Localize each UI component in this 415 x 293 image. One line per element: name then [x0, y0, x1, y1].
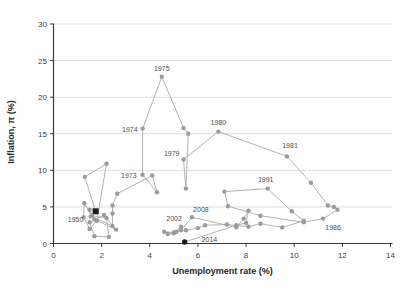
year-label-2014: 2014 — [202, 236, 218, 243]
point-1979 — [181, 157, 185, 161]
point-1970 — [115, 192, 119, 196]
point-1961 — [87, 220, 91, 224]
y-tick-label-15: 15 — [38, 130, 47, 139]
point-1998 — [203, 223, 207, 227]
point-1963 — [114, 227, 118, 231]
point-1977 — [186, 132, 190, 136]
point-1989 — [226, 204, 230, 208]
point-1976 — [181, 126, 185, 130]
point-1994 — [280, 225, 284, 229]
point-1950-black-square — [93, 208, 99, 214]
y-tick-label-5: 5 — [43, 203, 48, 212]
point-1999 — [196, 226, 200, 230]
x-tick-label-12: 12 — [338, 251, 347, 260]
y-tick-label-10: 10 — [38, 166, 47, 175]
y-tick-label-25: 25 — [38, 57, 47, 66]
point-2005 — [162, 230, 166, 234]
point-1968 — [110, 211, 114, 215]
year-label-1986: 1986 — [325, 224, 341, 231]
point-2000 — [184, 228, 188, 232]
point-1965 — [87, 208, 91, 212]
point-1978 — [184, 186, 188, 190]
point-1951 — [83, 175, 87, 179]
point-1969 — [110, 203, 114, 207]
point-1980 — [216, 129, 220, 133]
point-1991 — [266, 186, 270, 190]
x-tick-label-4: 4 — [148, 251, 153, 260]
y-axis-title: Inflation, π (%) — [6, 72, 16, 192]
year-label-1980: 1980 — [211, 119, 227, 126]
point-1954 — [87, 227, 91, 231]
point-1956 — [82, 201, 86, 205]
x-tick-label-10: 10 — [290, 251, 299, 260]
point-1997 — [225, 222, 229, 226]
x-tick-label-8: 8 — [244, 251, 249, 260]
point-2012 — [244, 221, 248, 225]
point-2006 — [172, 230, 176, 234]
point-1996 — [246, 225, 250, 229]
point-2008 — [190, 215, 194, 219]
point-1985 — [335, 208, 339, 212]
point-1974 — [140, 126, 144, 130]
point-2011 — [246, 208, 250, 212]
year-label-1981: 1981 — [282, 142, 298, 149]
year-label-1991: 1991 — [258, 176, 274, 183]
point-1992 — [290, 209, 294, 213]
x-tick-label-2: 2 — [99, 251, 104, 260]
point-1959 — [107, 235, 111, 239]
phillips-path — [84, 77, 338, 242]
point-1952 — [104, 162, 108, 166]
point-1984 — [332, 205, 336, 209]
point-1967 — [110, 224, 114, 228]
year-label-1979: 1979 — [164, 150, 180, 157]
point-1971 — [150, 173, 154, 177]
point-1960 — [92, 234, 96, 238]
point-1982 — [309, 181, 313, 185]
point-1981 — [285, 154, 289, 158]
x-tick-label-6: 6 — [196, 251, 201, 260]
point-1986 — [321, 216, 325, 220]
phillips-curve-chart: 0246810121405101520253019501973197419751… — [0, 0, 415, 293]
point-1988 — [258, 214, 262, 218]
year-label-2002: 2002 — [166, 215, 182, 222]
point-1975 — [160, 75, 164, 79]
x-tick-label-0: 0 — [51, 251, 56, 260]
year-label-1973: 1973 — [121, 172, 137, 179]
point-1964 — [92, 217, 96, 221]
x-tick-label-14: 14 — [386, 251, 395, 260]
point-1993 — [302, 219, 306, 223]
point-1962 — [102, 213, 106, 217]
point-1973 — [140, 173, 144, 177]
point-1972 — [155, 190, 159, 194]
point-1966 — [89, 214, 93, 218]
year-label-1974: 1974 — [122, 126, 138, 133]
year-label-2008: 2008 — [193, 206, 209, 213]
point-1995 — [258, 222, 262, 226]
point-1990 — [222, 189, 226, 193]
point-2010 — [242, 216, 246, 220]
y-tick-label-30: 30 — [38, 20, 47, 29]
point-2013 — [234, 223, 238, 227]
y-tick-label-0: 0 — [43, 240, 48, 249]
y-tick-label-20: 20 — [38, 93, 47, 102]
point-2014-black-dot — [182, 239, 187, 244]
point-1983 — [326, 203, 330, 207]
year-label-1975: 1975 — [154, 65, 170, 72]
point-2007 — [179, 228, 183, 232]
plot-canvas: 0246810121405101520253019501973197419751… — [0, 0, 415, 293]
x-axis-title: Unemployment rate (%) — [54, 266, 391, 276]
year-label-1950: 1950 — [68, 216, 84, 223]
